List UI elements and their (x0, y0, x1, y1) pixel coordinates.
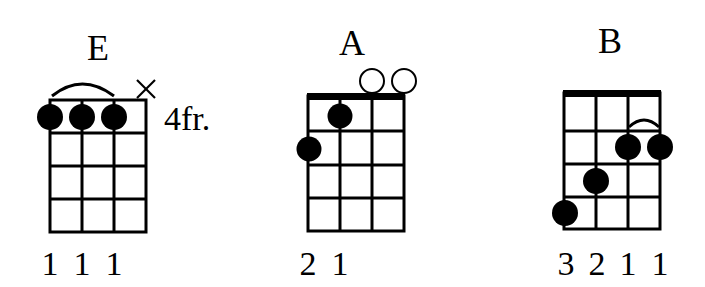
svg-text:1: 1 (620, 245, 637, 282)
open-string-icon (392, 69, 416, 93)
finger-dots (552, 134, 673, 226)
chord-chart: E 4fr. 1 1 1 A (0, 0, 705, 287)
chord-a: A 2 1 (297, 23, 417, 282)
chord-name: A (339, 23, 365, 63)
svg-text:2: 2 (589, 245, 606, 282)
fretboard-grid (308, 96, 404, 231)
fretboard-grid (50, 100, 146, 232)
svg-text:1: 1 (332, 245, 349, 282)
open-string-icon (360, 69, 384, 93)
barre-arc (52, 84, 114, 96)
nut (307, 93, 405, 100)
svg-text:3: 3 (558, 245, 575, 282)
svg-text:1: 1 (106, 245, 123, 282)
chord-e: E 4fr. 1 1 1 (37, 28, 210, 282)
nut (563, 90, 661, 97)
svg-text:1: 1 (652, 245, 669, 282)
finger-dot (552, 200, 578, 226)
fingering-labels: 2 1 (300, 245, 349, 282)
chord-name: E (87, 28, 109, 68)
fingering-labels: 1 1 1 (42, 245, 123, 282)
finger-dot (297, 137, 322, 162)
fingering-labels: 3 2 1 1 (558, 245, 669, 282)
finger-dot (69, 104, 95, 130)
muted-string-icon (137, 80, 155, 98)
chord-b: B 3 2 1 1 (552, 21, 673, 282)
chord-name: B (598, 21, 622, 61)
finger-dots (37, 104, 127, 130)
svg-text:2: 2 (300, 245, 317, 282)
open-string-icons (360, 69, 416, 93)
finger-dot (647, 134, 673, 160)
svg-text:1: 1 (74, 245, 91, 282)
fret-position-label: 4fr. (164, 100, 210, 137)
barre-arc (629, 120, 659, 127)
fretboard-grid (564, 93, 660, 229)
finger-dot (37, 104, 63, 130)
svg-text:1: 1 (42, 245, 59, 282)
finger-dot (328, 104, 353, 129)
finger-dot (615, 134, 641, 160)
finger-dot (583, 168, 609, 194)
finger-dot (101, 104, 127, 130)
